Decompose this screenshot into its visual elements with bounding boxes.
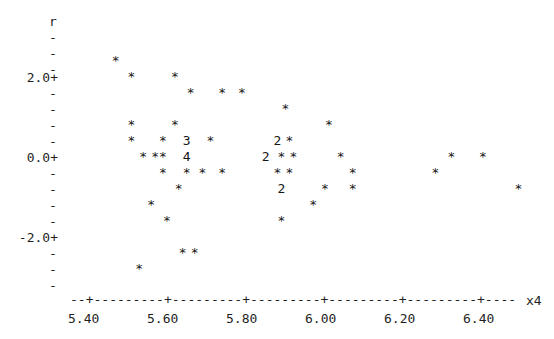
y-tick-label-0: 0.0+ — [16, 150, 58, 166]
plot-point: * — [127, 117, 135, 133]
plot-point: * — [479, 149, 487, 165]
y-tick-dash: - — [49, 102, 57, 118]
x-tick-label: 6.00 — [305, 311, 336, 327]
plot-point: * — [238, 85, 246, 101]
y-tick-dash: - — [49, 30, 57, 46]
plot-point: * — [321, 181, 329, 197]
y-axis-label: r — [49, 14, 57, 30]
plot-point: * — [171, 117, 179, 133]
y-tick-dash: - — [49, 214, 57, 230]
x-tick-label: 6.20 — [384, 311, 415, 327]
plot-point: * — [282, 101, 290, 117]
plot-point: * — [127, 69, 135, 85]
plot-point: * — [274, 165, 282, 181]
y-tick-label-minus2: -2.0+ — [8, 230, 58, 246]
plot-point-cluster: 2 — [274, 133, 282, 149]
plot-point: * — [515, 181, 523, 197]
plot-point-cluster: 2 — [278, 181, 286, 197]
plot-point-cluster: 2 — [262, 149, 270, 165]
y-tick-dash: - — [49, 246, 57, 262]
character-scatterplot-page: r - - - 2.0+ - - - - 0.0+ - - - - -2.0+ … — [0, 0, 554, 339]
plot-point: * — [218, 165, 226, 181]
plot-point: * — [218, 85, 226, 101]
x-tick-label: 5.80 — [226, 311, 257, 327]
plot-point: * — [191, 245, 199, 261]
plot-point: * — [206, 133, 214, 149]
plot-point: * — [447, 149, 455, 165]
plot-point-cluster: 3 — [183, 133, 191, 149]
plot-point: * — [309, 197, 317, 213]
y-tick-dash: - — [49, 278, 57, 294]
y-tick-dash: - — [49, 118, 57, 134]
plot-point: * — [159, 149, 167, 165]
plot-point: * — [278, 213, 286, 229]
plot-point: * — [183, 165, 191, 181]
y-tick-dash: - — [49, 166, 57, 182]
y-tick-dash: - — [49, 134, 57, 150]
y-tick-label-2: 2.0+ — [16, 70, 58, 86]
plot-point: * — [135, 261, 143, 277]
plot-point: * — [337, 149, 345, 165]
plot-point: * — [289, 149, 297, 165]
x-tick-label: 6.40 — [463, 311, 494, 327]
plot-point: * — [187, 85, 195, 101]
plot-point: * — [349, 165, 357, 181]
plot-point: * — [139, 149, 147, 165]
x-tick-label: 5.60 — [147, 311, 178, 327]
y-tick-dash: - — [49, 46, 57, 62]
plot-point: * — [159, 133, 167, 149]
y-tick-dash: - — [49, 198, 57, 214]
x-tick-label: 5.40 — [68, 311, 99, 327]
x-axis-label: x4 — [526, 293, 542, 309]
plot-point: * — [163, 213, 171, 229]
y-tick-dash: - — [49, 182, 57, 198]
plot-point: * — [127, 133, 135, 149]
plot-point: * — [349, 181, 357, 197]
plot-point: * — [175, 181, 183, 197]
x-axis-rule: --+---------+---------+---------+-------… — [70, 292, 516, 308]
plot-point: * — [432, 165, 440, 181]
plot-point: * — [199, 165, 207, 181]
plot-point: * — [159, 165, 167, 181]
plot-point: * — [325, 117, 333, 133]
plot-point: * — [171, 69, 179, 85]
plot-point-cluster: 4 — [183, 149, 191, 165]
plot-point: * — [179, 245, 187, 261]
plot-point: * — [285, 165, 293, 181]
plot-point: * — [147, 197, 155, 213]
plot-point: * — [151, 149, 159, 165]
y-tick-dash: - — [49, 86, 57, 102]
plot-point: * — [285, 133, 293, 149]
plot-point: * — [278, 149, 286, 165]
y-tick-dash: - — [49, 262, 57, 278]
plot-point: * — [112, 53, 120, 69]
